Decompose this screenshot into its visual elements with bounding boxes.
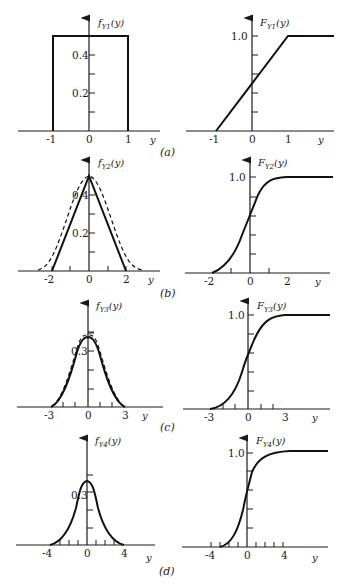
xtick-label: 0: [86, 273, 93, 285]
y-axis-label: fY2(y): [97, 157, 124, 171]
panel-a-left: 0.4 0.2 -1 0 1 y fY1(y): [18, 17, 160, 145]
x-axis-label: y: [147, 274, 154, 285]
xtick-label: 2: [123, 273, 130, 285]
xtick-label: -1: [46, 133, 56, 145]
xtick-label: -3: [44, 409, 54, 421]
uniform-cdf-curve: [216, 36, 334, 131]
xtick-label: 3: [282, 411, 289, 423]
ytick-label: 0.4: [72, 49, 89, 61]
panel-b-left: 0.4 0.2 -2 0 2 y fY2(y): [18, 157, 160, 285]
cdf-curve: [220, 451, 328, 547]
xtick-label: -1: [209, 133, 219, 145]
x-axis-label: y: [314, 276, 321, 287]
xtick-label: 1: [285, 133, 292, 145]
x-axis-label: y: [141, 410, 148, 421]
ytick-label: 0.3: [71, 345, 88, 357]
cdf-curve: [210, 315, 330, 409]
x-axis-label: y: [317, 134, 324, 145]
y-axis-label: fY1(y): [97, 17, 124, 31]
y-axis-label: fY3(y): [95, 300, 122, 314]
x-axis-label: y: [311, 412, 318, 423]
caption-d: (d): [159, 565, 175, 578]
y-axis-label: FY3(y): [256, 300, 287, 314]
ytick-label: 0.2: [72, 87, 89, 99]
xtick-label: 0: [244, 549, 251, 561]
uniform-density-curve: [53, 36, 128, 131]
x-axis-label: y: [149, 134, 156, 145]
panel-c-right: 1.0 -3 0 3 y FY3(y): [183, 300, 330, 423]
xtick-label: 0: [86, 133, 93, 145]
xtick-label: -4: [42, 547, 53, 559]
ytick-label: 1.0: [228, 447, 245, 459]
xtick-label: -2: [44, 273, 54, 285]
ytick-label: 1.0: [231, 30, 248, 42]
y-axis-label: FY4(y): [255, 435, 286, 449]
ytick-label: 0.2: [72, 227, 89, 239]
xtick-label: 3: [122, 409, 129, 421]
panel-b-right: 1.0 -2 0 2 y FY2(y): [185, 157, 333, 287]
ytick-label: 0.4: [72, 189, 89, 201]
x-axis-label: y: [145, 552, 152, 563]
ytick-label: 1.0: [229, 171, 246, 183]
y-axis-label: FY1(y): [259, 17, 290, 31]
panel-a-right: 1.0 -1 0 1 y FY1(y): [186, 17, 334, 145]
xtick-label: 4: [281, 549, 288, 561]
cdf-curve: [212, 177, 333, 273]
y-axis-label: FY2(y): [257, 157, 288, 171]
panel-d-right: 1.0 -4 0 4 y FY4(y): [182, 435, 328, 563]
xtick-label: 1: [125, 133, 132, 145]
xtick-label: 0: [247, 275, 254, 287]
caption-a: (a): [160, 146, 175, 159]
panel-c-left: 0.3 -3 0 3 y fY3(y): [17, 300, 163, 421]
gaussian-approx-curve: [38, 176, 142, 270]
xtick-label: 2: [284, 275, 291, 287]
caption-c: (c): [160, 421, 175, 434]
xtick-label: 0: [245, 411, 252, 423]
panel-d-left: 0.3 -4 0 4 y fY4(y): [16, 435, 155, 563]
ytick-label: 1.0: [228, 309, 245, 321]
xtick-label: -2: [204, 275, 214, 287]
x-axis-label: y: [311, 552, 318, 563]
xtick-label: -3: [204, 411, 214, 423]
xtick-label: 0: [84, 547, 91, 559]
caption-b: (b): [160, 287, 176, 300]
xtick-label: 0: [249, 133, 256, 145]
figure-canvas: 0.4 0.2 -1 0 1 y fY1(y) 1.0 -1 0 1 y FY1…: [0, 0, 347, 585]
xtick-label: 0: [85, 409, 92, 421]
xtick-label: -4: [205, 549, 216, 561]
xtick-label: 4: [121, 547, 128, 559]
y-axis-label: fY4(y): [94, 435, 121, 449]
ytick-label: 0.3: [71, 489, 88, 501]
